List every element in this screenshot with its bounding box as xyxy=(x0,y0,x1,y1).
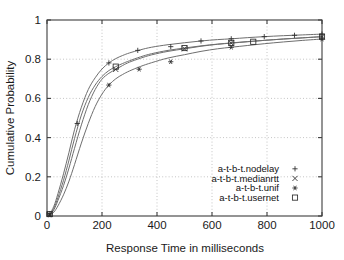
x-tick-label: 800 xyxy=(257,219,276,231)
x-tick-label: 200 xyxy=(92,219,111,231)
y-tick-label: 0.6 xyxy=(25,92,41,104)
cdf-line-chart: 02004006008001000 00.20.40.60.81 a-t-b-t… xyxy=(0,0,344,260)
chart-figure: 02004006008001000 00.20.40.60.81 a-t-b-t… xyxy=(0,0,344,260)
x-tick-label: 400 xyxy=(147,219,166,231)
y-tick-label: 0.8 xyxy=(25,53,41,65)
y-tick-label: 0.2 xyxy=(25,171,41,183)
chart-background xyxy=(0,0,344,260)
x-tick-label: 600 xyxy=(202,219,221,231)
y-axis-title: Cumulative Probability xyxy=(4,61,16,176)
x-tick-label: 1000 xyxy=(309,219,335,231)
x-tick-label: 0 xyxy=(44,219,50,231)
legend-label-a-t-b-t-usernet: a-t-b-t.usernet xyxy=(219,192,279,203)
y-tick-label: 1 xyxy=(35,14,41,26)
y-tick-label: 0 xyxy=(35,210,41,222)
y-tick-label: 0.4 xyxy=(25,132,42,144)
x-axis-title: Response Time in milliseconds xyxy=(106,242,264,254)
